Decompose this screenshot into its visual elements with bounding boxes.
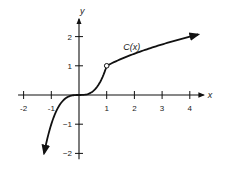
y-tick-label: −1 xyxy=(63,120,73,129)
open-circle xyxy=(104,64,109,69)
x-tick-label: 4 xyxy=(188,104,193,113)
curve-label: C(x) xyxy=(123,42,140,52)
x-tick-label: -2 xyxy=(20,104,28,113)
curves xyxy=(44,34,198,153)
x-tick-label: 3 xyxy=(160,104,165,113)
x-tick-label: 2 xyxy=(132,104,137,113)
curve-sqrt xyxy=(107,34,198,65)
x-tick-label: 1 xyxy=(104,104,109,113)
x-axis-label: x xyxy=(207,90,213,100)
x-tick-label: -1 xyxy=(48,104,56,113)
y-tick-label: 1 xyxy=(68,62,73,71)
y-axis-label: y xyxy=(79,6,85,16)
chart: -2-11234−2−112xyC(x) xyxy=(0,0,227,170)
y-tick-label: 2 xyxy=(68,33,73,42)
y-tick-label: −2 xyxy=(63,149,73,158)
